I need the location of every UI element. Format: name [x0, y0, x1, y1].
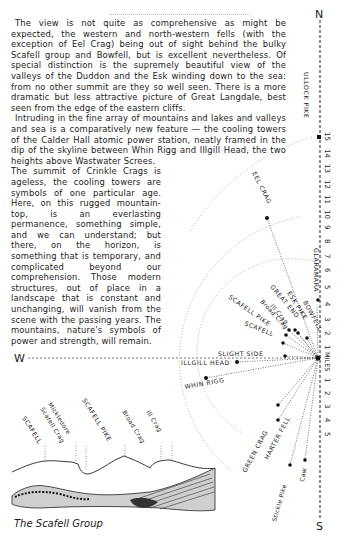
paragraph-cooling-towers: Intruding in the fine array of mountains…: [11, 113, 286, 166]
summit-label-slight-side: SLIGHT SIDE: [218, 350, 263, 357]
north-scale: 15 14 13 12 11 10 9 8 7 6 5 4 3 2 1: [323, 132, 331, 349]
west-label: W: [14, 352, 25, 365]
summit-marker-ill-crag: [287, 328, 291, 332]
tick-9: 9: [323, 225, 331, 229]
tick-s2: 2: [323, 391, 331, 395]
summit-label-ullock-pike: ULLOCK PIKE: [303, 72, 310, 119]
tick-14: 14: [323, 149, 331, 158]
summit-marker-illgill-head: [235, 360, 239, 364]
sketch-label-scafell-pike: SCAFELL PIKE: [81, 397, 113, 443]
tick-7: 7: [323, 254, 331, 258]
summit-marker-green-crag: [276, 418, 280, 422]
tick-s5: 5: [323, 432, 331, 436]
paragraph-view: The view is not quite as comprehensive a…: [11, 18, 286, 113]
paragraph-permanence: The summit of Crinkle Crags is ageless, …: [11, 166, 161, 346]
summit-marker-bowfell: [305, 336, 309, 340]
tick-10: 10: [323, 210, 331, 219]
summit-marker-harter-fell: [276, 403, 280, 407]
sketch-label-ill-crag: Ill Crag: [144, 409, 164, 434]
scale-miles-label: MILES: [323, 352, 331, 371]
tick-1: 1: [323, 345, 331, 349]
north-label: N: [315, 8, 323, 21]
summit-label-green-crag: GREEN CRAG: [241, 429, 269, 474]
summit-marker-esk-pike: [296, 331, 300, 335]
sketch-label-broad-crag: Broad Crag: [120, 409, 147, 445]
header-rule: [110, 14, 250, 15]
tick-11: 11: [323, 195, 331, 204]
tick-5: 5: [323, 285, 331, 289]
sketch-label-scafell: SCAFELL: [21, 415, 43, 445]
tick-12: 12: [323, 180, 331, 189]
tick-2: 2: [323, 331, 331, 335]
tick-15: 15: [323, 132, 331, 141]
summit-marker-caw: [303, 458, 307, 462]
description-text: The view is not quite as comprehensive a…: [11, 18, 286, 346]
summit-marker-ullock-pike: [317, 135, 321, 139]
sketch-label-scafell-crag: Scafell Crag: [38, 406, 66, 445]
summit-position-marker: [316, 356, 321, 361]
tick-s1: 1: [323, 378, 331, 382]
sketch-label-mickledore: Mickledore: [47, 401, 72, 436]
summit-marker-great-end: [293, 328, 297, 332]
summit-marker-whin-rigg: [204, 376, 208, 380]
tick-s3: 3: [323, 404, 331, 408]
sketch-caption: The Scafell Group: [14, 518, 103, 529]
tick-4: 4: [323, 302, 331, 307]
foreground-rocks: [12, 468, 215, 511]
tick-8: 8: [323, 239, 331, 243]
summit-marker-stickle-pike: [288, 463, 292, 467]
summit-label-glaramara: GLARAMARA: [313, 248, 320, 292]
summit-marker-glaramara: [316, 298, 320, 302]
summit-label-harter-fell: HARTER FELL: [263, 415, 292, 460]
summit-label-whin-rigg: WHIN RIGG: [184, 376, 225, 390]
summit-label-illgill-head: ILLGILL HEAD: [181, 359, 230, 366]
tick-s4: 4: [323, 418, 331, 423]
tick-6: 6: [323, 268, 331, 273]
summit-label-stickle-pike: Stickle Pike: [270, 483, 287, 522]
summit-label-esk-pike: ESK PIKE: [286, 290, 309, 321]
tick-13: 13: [323, 164, 331, 173]
summit-label-caw: Caw: [298, 467, 307, 482]
summit-label-bowfell: BOWFELL: [302, 299, 324, 332]
skyline-outline: [12, 456, 215, 474]
south-label: S: [316, 520, 323, 533]
summit-marker-slight-side: [283, 354, 287, 358]
scafell-group-sketch: SCAFELL Mickledore Scafell Crag SCAFELL …: [12, 397, 215, 511]
tick-3: 3: [323, 317, 331, 321]
south-scale: 1 2 3 4 5: [323, 378, 331, 436]
